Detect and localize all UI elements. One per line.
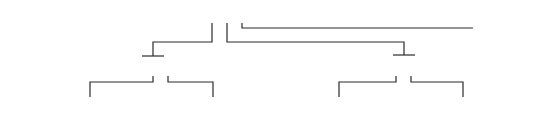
digit-tree-diagram xyxy=(0,0,545,119)
connector-left-1 xyxy=(168,76,213,97)
connector-left-0 xyxy=(90,76,153,97)
connector-right-1 xyxy=(411,76,463,97)
connector-4-right xyxy=(242,23,473,28)
connector-right-0 xyxy=(339,76,396,97)
connector-2-left xyxy=(153,23,212,56)
